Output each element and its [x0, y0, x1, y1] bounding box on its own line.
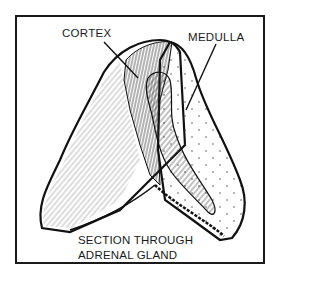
cortex-label: CORTEX	[62, 28, 112, 40]
figure-caption: SECTION THROUGH ADRENAL GLAND	[78, 233, 193, 263]
caption-line-2: ADRENAL GLAND	[78, 248, 193, 263]
caption-line-1: SECTION THROUGH	[78, 233, 193, 248]
medulla-label: MEDULLA	[188, 32, 244, 44]
